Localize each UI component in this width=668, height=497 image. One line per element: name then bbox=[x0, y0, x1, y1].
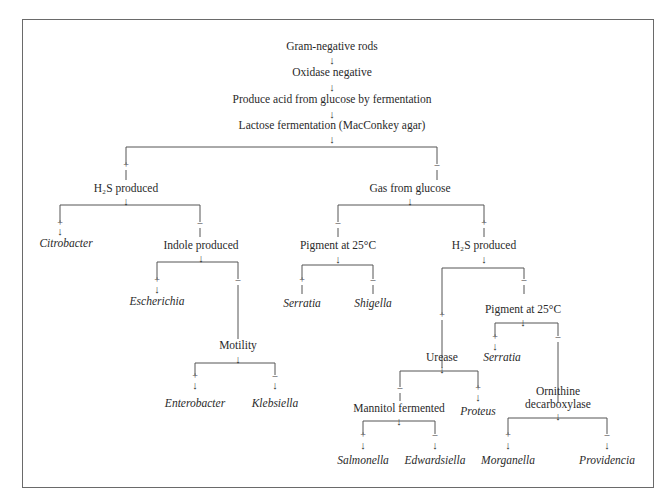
arrow-down-icon: ↓ bbox=[154, 284, 160, 295]
node-h2s-produced-left: H₂S produced bbox=[94, 182, 158, 195]
arrow-down-icon: ↓ bbox=[360, 440, 366, 451]
arrow-down-icon: ↓ bbox=[123, 196, 129, 207]
plus-sign: + bbox=[123, 160, 129, 170]
node-acid-from-glucose: Produce acid from glucose by fermentatio… bbox=[233, 93, 432, 106]
minus-sign: – bbox=[435, 160, 440, 170]
node-h2s-produced-right: H₂S produced bbox=[452, 239, 516, 252]
minus-sign: – bbox=[198, 218, 203, 228]
genus-serratia-a: Serratia bbox=[283, 297, 321, 310]
arrow-down-icon: ↓ bbox=[192, 380, 198, 391]
minus-sign: – bbox=[236, 275, 241, 285]
arrow-down-icon: ↓ bbox=[335, 254, 341, 265]
node-motility: Motility bbox=[219, 339, 257, 352]
arrow-down-icon: ↓ bbox=[520, 317, 526, 328]
genus-salmonella: Salmonella bbox=[337, 454, 389, 467]
genus-morganella: Morganella bbox=[481, 454, 535, 467]
genus-edwardsiella: Edwardsiella bbox=[405, 454, 466, 467]
arrow-down-icon: ↓ bbox=[198, 253, 204, 264]
minus-sign: – bbox=[371, 275, 376, 285]
minus-sign: – bbox=[522, 275, 527, 285]
plus-sign: + bbox=[299, 275, 305, 285]
plus-sign: + bbox=[439, 310, 445, 320]
arrow-down-icon: ↓ bbox=[407, 196, 413, 207]
arrow-down-icon: ↓ bbox=[329, 55, 335, 66]
arrow-down-icon: ↓ bbox=[439, 364, 445, 375]
arrow-down-icon: ↓ bbox=[396, 416, 402, 427]
genus-citrobacter: Citrobacter bbox=[39, 237, 92, 250]
node-pigment-25c-a: Pigment at 25°C bbox=[300, 239, 376, 252]
genus-shigella: Shigella bbox=[354, 297, 392, 310]
genus-serratia-b: Serratia bbox=[483, 351, 521, 364]
arrow-down-icon: ↓ bbox=[555, 411, 561, 422]
arrow-down-icon: ↓ bbox=[505, 440, 511, 451]
node-lactose-fermentation: Lactose fermentation (MacConkey agar) bbox=[239, 119, 426, 132]
arrow-down-icon: ↓ bbox=[329, 134, 335, 145]
genus-providencia: Providencia bbox=[579, 454, 635, 467]
genus-proteus: Proteus bbox=[460, 405, 495, 418]
node-gas-from-glucose: Gas from glucose bbox=[369, 182, 450, 195]
arrow-down-icon: ↓ bbox=[329, 82, 335, 93]
node-ornithine-line1: Ornithine bbox=[536, 385, 580, 398]
minus-sign: – bbox=[398, 383, 403, 393]
arrow-down-icon: ↓ bbox=[57, 226, 63, 237]
arrow-down-icon: ↓ bbox=[604, 440, 610, 451]
arrow-down-icon: ↓ bbox=[475, 392, 481, 403]
minus-sign: – bbox=[336, 218, 341, 228]
node-gram-negative-rods: Gram-negative rods bbox=[286, 40, 378, 53]
arrow-down-icon: ↓ bbox=[432, 440, 438, 451]
arrow-down-icon: ↓ bbox=[481, 254, 487, 265]
node-mannitol-fermented: Mannitol fermented bbox=[353, 402, 445, 415]
genus-enterobacter: Enterobacter bbox=[165, 397, 225, 410]
plus-sign: + bbox=[481, 218, 487, 228]
node-indole-produced: Indole produced bbox=[163, 239, 238, 252]
arrow-down-icon: ↓ bbox=[235, 354, 241, 365]
node-pigment-25c-b: Pigment at 25°C bbox=[485, 303, 561, 316]
node-oxidase-negative: Oxidase negative bbox=[292, 66, 372, 79]
genus-escherichia: Escherichia bbox=[130, 295, 185, 308]
minus-sign: – bbox=[556, 332, 561, 342]
arrow-down-icon: ↓ bbox=[272, 380, 278, 391]
genus-klebsiella: Klebsiella bbox=[252, 397, 299, 410]
